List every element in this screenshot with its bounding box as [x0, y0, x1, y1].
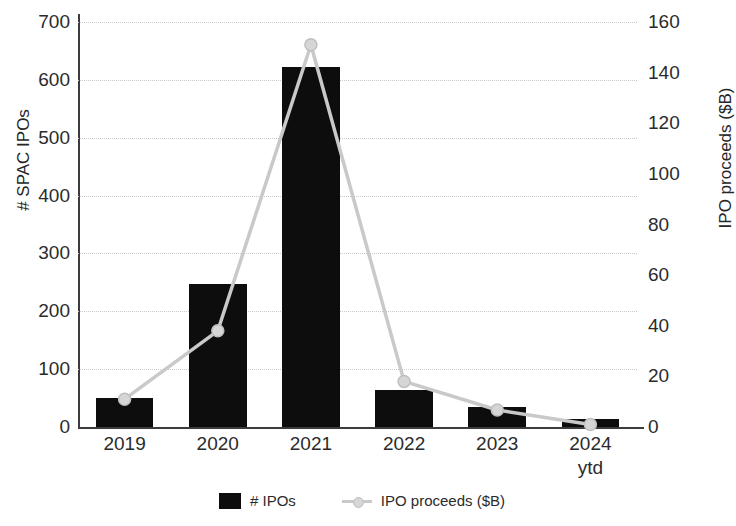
y-axis-left-tick: 0 [10, 417, 70, 436]
line-path [125, 45, 591, 425]
legend-label-bars: # IPOs [250, 492, 296, 509]
line-marker [212, 325, 224, 337]
legend-label-line: IPO proceeds ($B) [381, 492, 505, 509]
plot-area [78, 22, 637, 427]
line-markers [119, 39, 597, 431]
x-axis-line [78, 427, 644, 429]
y-axis-right-tick: 20 [648, 366, 708, 385]
x-axis-tick-label: 2023 [451, 432, 544, 456]
y-axis-right-tick: 0 [648, 417, 708, 436]
chart-legend: # IPOs IPO proceeds ($B) [0, 492, 724, 509]
y-axis-left-tick: 300 [10, 243, 70, 262]
line-marker [119, 393, 131, 405]
x-axis-labels: 201920202021202220232024ytd [78, 432, 637, 492]
x-axis-tick-label: 2022 [358, 432, 451, 456]
y-axis-right-tick: 80 [648, 215, 708, 234]
y-axis-right-tick: 140 [648, 63, 708, 82]
y-axis-left-tick: 700 [10, 12, 70, 31]
line-marker [491, 404, 503, 416]
line-marker [584, 419, 596, 431]
y-axis-right-tick: 100 [648, 164, 708, 183]
line-series [78, 22, 637, 427]
y-axis-right-title: IPO proceeds ($B) [716, 58, 736, 258]
y-axis-right-tick: 40 [648, 316, 708, 335]
x-axis-tick-label: 2019 [78, 432, 171, 456]
x-axis-tick-label: 2020 [171, 432, 264, 456]
legend-item-line[interactable]: IPO proceeds ($B) [342, 492, 505, 509]
y-axis-right-ticks: 020406080100120140160 [648, 0, 710, 526]
legend-item-bars[interactable]: # IPOs [219, 492, 296, 509]
x-axis-tick-label: 2021 [264, 432, 357, 456]
y-axis-left-tick: 100 [10, 359, 70, 378]
line-marker [305, 39, 317, 51]
y-axis-right-tick: 60 [648, 265, 708, 284]
y-axis-right-tick: 160 [648, 12, 708, 31]
y-axis-left-tick: 200 [10, 301, 70, 320]
y-axis-right-tick: 120 [648, 113, 708, 132]
y-axis-left-ticks: 0100200300400500600700 [8, 0, 70, 526]
y-axis-left-tick: 600 [10, 70, 70, 89]
line-marker-icon [342, 493, 372, 509]
bar-swatch-icon [219, 493, 241, 509]
line-marker [398, 375, 410, 387]
y-axis-left-tick: 400 [10, 186, 70, 205]
x-axis-tick-label: 2024ytd [544, 432, 637, 480]
y-axis-left-tick: 500 [10, 128, 70, 147]
